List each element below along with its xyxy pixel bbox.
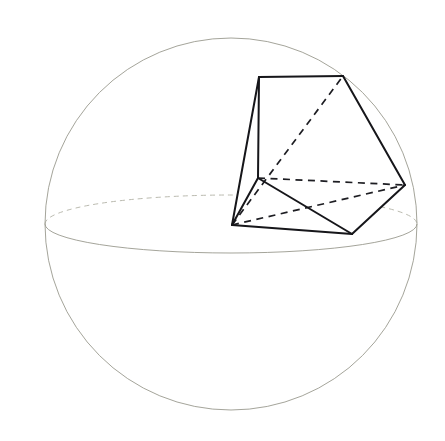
equator-front-arc [45,224,417,253]
edge-AB [259,76,343,77]
figure-root [0,0,445,441]
geometry-canvas [0,0,445,441]
edge-AF [258,77,259,178]
